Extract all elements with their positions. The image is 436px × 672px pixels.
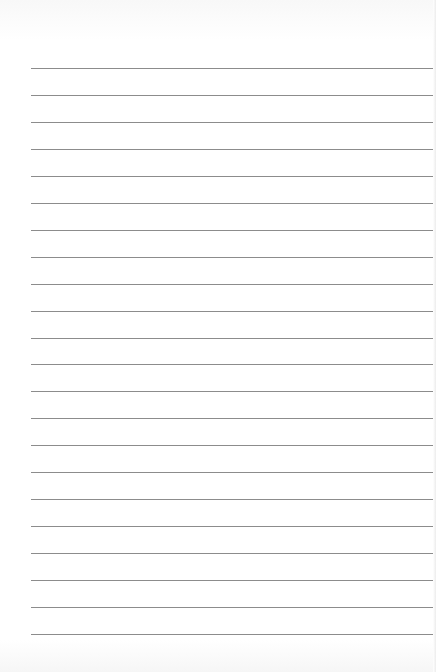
ruled-line — [31, 391, 433, 392]
ruled-line — [31, 526, 433, 527]
ruled-line — [31, 499, 433, 500]
ruled-line — [31, 95, 433, 96]
ruled-line — [31, 607, 433, 608]
ruled-line — [31, 122, 433, 123]
ruled-line — [31, 68, 433, 69]
ruled-line — [31, 580, 433, 581]
ruled-line — [31, 284, 433, 285]
ruled-line — [31, 634, 433, 635]
ruled-line — [31, 203, 433, 204]
ruled-line — [31, 553, 433, 554]
ruled-line — [31, 364, 433, 365]
ruled-line — [31, 230, 433, 231]
ruled-line — [31, 311, 433, 312]
ruled-paper-page — [0, 0, 436, 672]
ruled-line — [31, 257, 433, 258]
ruled-line — [31, 149, 433, 150]
ruled-line — [31, 418, 433, 419]
ruled-line — [31, 338, 433, 339]
ruled-line — [31, 445, 433, 446]
ruled-line — [31, 472, 433, 473]
ruled-line — [31, 176, 433, 177]
